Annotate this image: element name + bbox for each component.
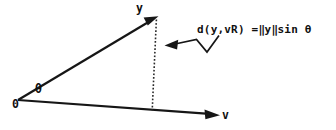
vector-v-label: v (222, 110, 229, 122)
distance-formula-annotation: d(y,vR) =‖y‖sin θ (197, 23, 312, 36)
formula-spacer-2 (298, 23, 305, 36)
formula-angle-symbol: θ (305, 23, 312, 36)
origin-label: 0 (12, 99, 19, 111)
vector-y-label: y (136, 3, 143, 15)
angle-theta-label: θ (35, 84, 42, 96)
vector-v-group (18, 100, 220, 119)
formula-spacer-1 (245, 23, 252, 36)
perpendicular-dashed-line (152, 20, 156, 111)
vector-distance-figure: y v 0 θ d(y,vR) =‖y‖sin θ (0, 0, 336, 130)
annotation-leader-group (165, 36, 220, 53)
figure-canvas (0, 0, 336, 130)
formula-function-part: d(y,vR) (197, 23, 245, 36)
vector-v-arrowhead (205, 110, 221, 120)
formula-trig-part: sin (278, 23, 298, 36)
vector-v-shaft (18, 100, 206, 114)
annotation-leader-arrowhead (165, 40, 179, 50)
annotation-leader-line (175, 36, 219, 53)
